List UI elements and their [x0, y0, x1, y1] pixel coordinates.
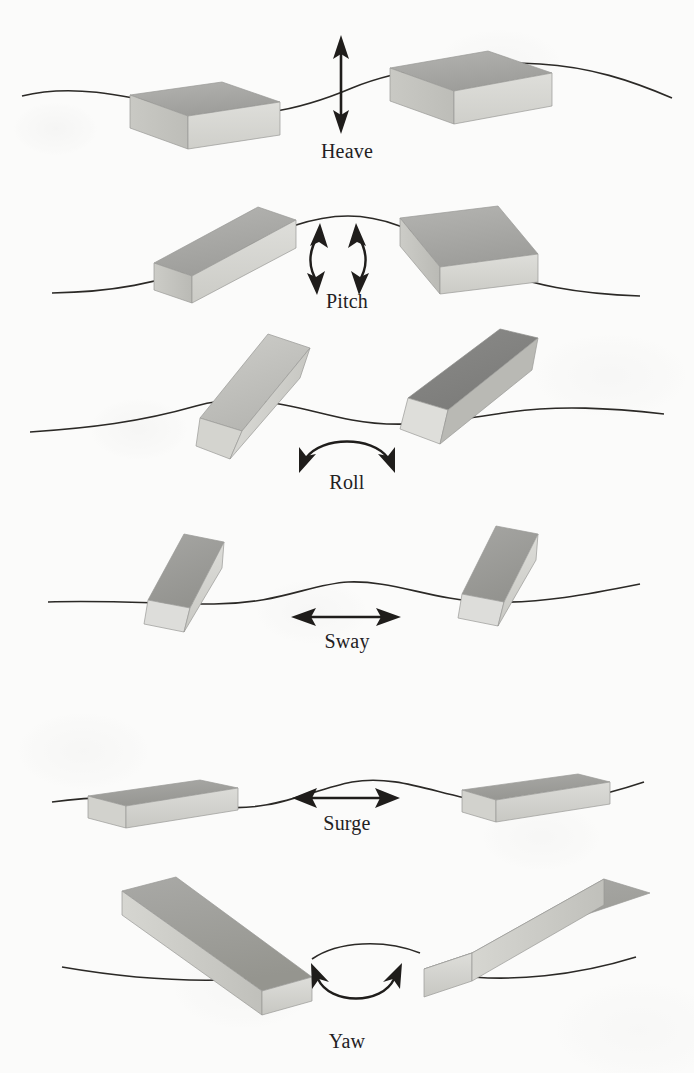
box-right-high — [390, 51, 552, 124]
surge-arrow-icon — [292, 788, 400, 808]
panel-surge: Surge — [0, 700, 694, 850]
label-pitch: Pitch — [0, 290, 694, 313]
wave-line — [22, 63, 672, 114]
roll-arrow-icon — [299, 442, 395, 474]
ship-motions-figure: Heave — [0, 0, 694, 1073]
box-right-heeled — [400, 329, 538, 444]
wave-line — [48, 582, 640, 604]
yaw-arrow-icon — [311, 963, 402, 999]
panel-pitch: Pitch — [0, 190, 694, 330]
label-yaw: Yaw — [0, 1030, 694, 1053]
panel-roll: Roll — [0, 326, 694, 511]
box-right-swung — [424, 879, 650, 997]
box-left-heeled — [196, 334, 310, 459]
pitch-arrow-left-icon — [307, 223, 328, 295]
label-roll: Roll — [0, 471, 694, 494]
box-right-displaced — [458, 526, 538, 626]
box-right-bow-down — [400, 206, 538, 294]
box-left-displaced — [144, 534, 224, 632]
panel-sway: Sway — [0, 512, 694, 677]
box-left-swung — [122, 877, 312, 1015]
panel-heave: Heave — [0, 18, 694, 178]
wave-line — [52, 216, 640, 296]
wave-line-center — [312, 944, 420, 959]
label-sway: Sway — [0, 630, 694, 653]
box-left-low — [130, 82, 280, 149]
heave-arrow-icon — [333, 35, 349, 134]
wave-line — [30, 400, 664, 432]
panel-yaw: Yaw — [0, 845, 694, 1073]
box-left-bow-up — [154, 207, 296, 303]
label-heave: Heave — [0, 140, 694, 163]
label-surge: Surge — [0, 812, 694, 835]
pitch-arrow-right-icon — [348, 223, 369, 295]
sway-arrow-icon — [291, 608, 401, 626]
